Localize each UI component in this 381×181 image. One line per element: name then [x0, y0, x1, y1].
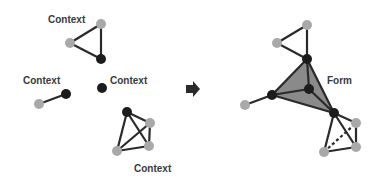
gray-node — [145, 118, 155, 128]
edge — [277, 43, 307, 59]
form-label: Form — [327, 75, 352, 86]
black-node — [122, 107, 132, 117]
context-group-triangle: Context — [48, 14, 106, 64]
black-node — [61, 89, 71, 99]
edge — [70, 24, 101, 43]
context-label-bottom: Context — [134, 163, 172, 174]
gray-node — [302, 20, 312, 30]
gray-node — [351, 142, 361, 152]
black-node — [302, 54, 312, 64]
context-label-top: Context — [48, 14, 86, 25]
gray-node — [96, 19, 106, 29]
context-group-k4-clique: Context — [112, 107, 172, 174]
gray-node — [240, 100, 250, 110]
black-node — [97, 83, 107, 93]
gray-node — [112, 146, 122, 156]
context-group-single-node: Context — [97, 75, 148, 93]
edge — [70, 43, 101, 59]
black-node — [329, 108, 339, 118]
merged-form-graph: Form — [240, 20, 361, 157]
gray-node — [319, 147, 329, 157]
gray-node — [34, 99, 44, 109]
context-label-middle: Context — [110, 75, 148, 86]
gray-node — [272, 38, 282, 48]
gray-node — [351, 118, 361, 128]
edge — [277, 25, 307, 43]
context-form-diagram: Context Context Context Context — [0, 0, 381, 181]
black-node — [96, 54, 106, 64]
gray-node — [65, 38, 75, 48]
black-node-center — [304, 84, 314, 94]
gray-node — [144, 141, 154, 151]
context-group-edge-pair: Context — [23, 75, 71, 109]
right-arrow-icon — [186, 81, 200, 97]
context-label-left: Context — [23, 75, 61, 86]
black-node — [267, 90, 277, 100]
